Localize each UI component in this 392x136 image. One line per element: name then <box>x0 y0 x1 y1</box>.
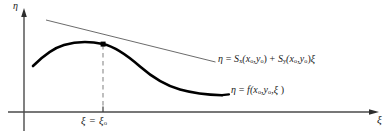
xi-zero-prefix: ξ = ξ <box>81 115 104 126</box>
tangent-term2-open: (x <box>286 53 294 64</box>
horizontal-axis-label: ξ <box>377 114 382 125</box>
curve-args-close: ) <box>278 84 284 95</box>
curve-equation-label: η = f(xo,yo,ξ ) <box>231 85 284 96</box>
figure-canvas <box>0 0 392 136</box>
function-curve <box>33 42 222 95</box>
tangent-line <box>46 20 216 62</box>
tangent-term1-open: (x <box>242 53 250 64</box>
vertical-axis-arrowhead <box>21 8 27 17</box>
vertical-axis-label: η <box>13 1 18 11</box>
tangent-equals: = <box>223 53 234 64</box>
curve-label-leader <box>222 94 229 95</box>
horizontal-axis <box>8 109 379 115</box>
curve-equals: = <box>236 84 247 95</box>
xi-zero-tick-label: ξ = ξo <box>81 116 107 127</box>
tangent-equation-label: η = Sx(xo,yo) + Sy(xo,yo)ξ <box>218 54 315 65</box>
figure-container: η ξ ξ = ξo η = Sx(xo,yo) + Sy(xo,yo)ξ η … <box>0 0 392 136</box>
tangency-point-marker <box>101 42 106 47</box>
tangent-plus: + <box>267 53 278 64</box>
curve-args-open: (x <box>250 84 258 95</box>
tangent-term2-tail: ξ <box>311 53 315 64</box>
xi-zero-subscript: o <box>104 119 107 126</box>
